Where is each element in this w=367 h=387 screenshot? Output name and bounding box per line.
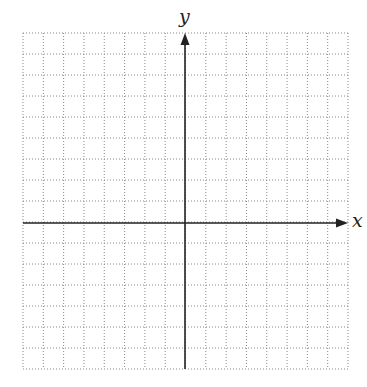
x-axis-label: x <box>352 211 363 230</box>
coordinate-grid <box>0 0 367 387</box>
x-axis-arrow-icon <box>336 219 348 228</box>
y-axis-label: y <box>179 7 190 26</box>
y-axis-arrow-icon <box>181 33 190 45</box>
